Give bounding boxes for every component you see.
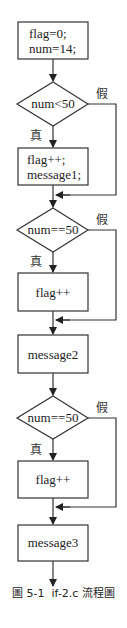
body1-line-1: flag++; [27, 152, 66, 167]
cond1-text: num<50 [31, 96, 74, 111]
msg2-text: message2 [28, 347, 79, 362]
init-line-2: num=14; [29, 41, 76, 56]
body3-text: flag++ [36, 472, 71, 487]
cond1-true-label: 真 [30, 129, 42, 143]
cond2-text: num==50 [28, 222, 79, 237]
cond3-text: num==50 [28, 410, 79, 425]
body1-line-2: message1; [27, 167, 81, 182]
msg3-text: message3 [28, 535, 79, 550]
body2-text: flag++ [36, 285, 71, 300]
cond2-false-label: 假 [96, 213, 108, 227]
cond1-false-label: 假 [96, 87, 108, 101]
cond3-false-label: 假 [96, 401, 108, 415]
init-line-1: flag=0; [29, 26, 67, 41]
figure-caption: 圖 5-1 if-2.c 流程圖 [0, 584, 127, 600]
flowchart: flag=0; num=14; num<50 假 真 flag++; messa… [0, 0, 127, 628]
cond2-true-label: 真 [30, 255, 42, 269]
cond3-true-label: 真 [30, 443, 42, 457]
